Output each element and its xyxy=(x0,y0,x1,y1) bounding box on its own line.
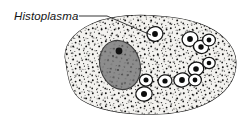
yeast-core xyxy=(187,36,193,42)
yeast-core xyxy=(179,77,185,83)
yeast-core xyxy=(193,78,198,83)
label-histoplasma: Histoplasma xyxy=(14,10,78,22)
macrophage xyxy=(60,10,245,120)
histoplasma-macrophage-figure: Histoplasma xyxy=(0,0,247,126)
yeast-core xyxy=(207,38,212,43)
nucleolus xyxy=(116,48,123,55)
yeast-core xyxy=(207,61,212,66)
yeast-9 xyxy=(189,74,202,86)
figure-canvas: Histoplasma xyxy=(0,0,247,126)
yeast-core xyxy=(141,91,147,97)
yeast-4 xyxy=(203,34,216,46)
yeast-core xyxy=(162,78,167,83)
yeast-6 xyxy=(203,57,215,68)
yeast-core xyxy=(198,44,203,49)
yeast-core xyxy=(193,66,199,72)
yeast-core xyxy=(152,31,158,37)
yeast-core xyxy=(144,78,149,83)
yeast-10 xyxy=(139,74,152,86)
